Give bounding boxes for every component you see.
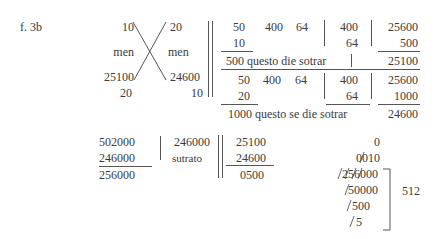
sub1-side-label: sutrato	[172, 152, 202, 164]
double-rule-left	[208, 21, 209, 97]
b2-divider-1	[324, 73, 325, 99]
sub1-bottom: 246000	[95, 152, 135, 164]
sub2-rule	[226, 165, 274, 166]
cross-bottom-left: 25100	[90, 71, 134, 83]
b2-right-top: 25600	[380, 74, 418, 86]
galley-quotient: 512	[402, 185, 420, 197]
cross-foot-right: 10	[170, 87, 203, 99]
sub1-rule	[99, 166, 152, 167]
cross-top-left: 10	[100, 21, 134, 33]
double-rule-2-left	[218, 135, 219, 178]
cross-bottom-right: 24600	[170, 71, 200, 83]
sub1-side-value: 246000	[174, 136, 210, 148]
b2-result: 24600	[380, 108, 418, 120]
sub2-bottom: 24600	[228, 152, 266, 164]
b1-rule-left	[221, 51, 253, 52]
b1-mid-top: 400	[330, 21, 358, 33]
sub1-top: 502000	[95, 136, 135, 148]
sub2-result: 0500	[228, 169, 264, 181]
b1-row1-c: 64	[296, 21, 308, 33]
b1-divider-2	[371, 20, 372, 46]
b1-row1-a: 50	[233, 21, 245, 33]
b2-rule-left	[221, 104, 258, 105]
b2-mid-bottom: 64	[330, 90, 358, 102]
b2-row2: 20	[238, 90, 250, 102]
b1-caption-divider	[351, 54, 352, 67]
b1-rule-bottom	[221, 69, 420, 70]
sub2-top: 25100	[228, 136, 266, 148]
cross-foot-left: 20	[100, 87, 132, 99]
b2-rule-mid	[326, 104, 370, 105]
b1-result: 25100	[380, 55, 418, 67]
sub1-divider	[160, 136, 161, 160]
b1-rule-right	[378, 51, 420, 52]
b1-mid-bottom: 64	[330, 37, 358, 49]
b2-rule-right	[378, 104, 420, 105]
double-rule-right	[212, 21, 213, 97]
cross-mid-right: men	[168, 46, 189, 58]
double-rule-2-right	[222, 135, 223, 178]
cross-mid-left: men	[100, 46, 134, 58]
strikethrough-marks-icon	[330, 150, 390, 232]
galley-line-1: 0	[340, 136, 380, 148]
b1-row1-b: 400	[265, 21, 283, 33]
b2-divider-2	[371, 73, 372, 99]
b1-right-bottom: 500	[380, 37, 418, 49]
b2-row1-a: 50	[238, 74, 250, 86]
sub1-result: 256000	[95, 169, 135, 181]
b2-row1-c: 64	[295, 74, 307, 86]
b2-row1-b: 400	[263, 74, 281, 86]
folio-label: f. 3b	[20, 21, 42, 33]
b2-right-bottom: 1000	[380, 90, 418, 102]
b1-row2: 10	[233, 37, 245, 49]
b2-caption: 1000 questo se die sotrar	[228, 108, 347, 120]
b1-caption: 500 questo die sotrar	[226, 55, 326, 67]
b1-divider-1	[324, 20, 325, 46]
bracket-icon	[382, 168, 392, 232]
b2-mid-top: 400	[330, 74, 358, 86]
cross-lines-icon	[130, 20, 170, 82]
b1-right-top: 25600	[380, 21, 418, 33]
cross-top-right: 20	[170, 21, 182, 33]
